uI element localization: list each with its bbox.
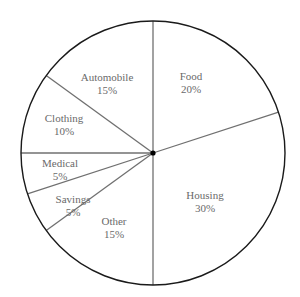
slice-label-food: Food 20% [180,70,203,95]
slice-value: 5% [66,206,81,218]
slice-label-other: Other 15% [101,215,126,240]
slice-value: 15% [104,228,124,240]
slice-value: 20% [181,83,201,95]
slice-value: 5% [53,170,68,182]
pie-chart: Food 20% Housing 30% Other 15% Savings 5… [0,0,300,297]
center-dot [150,150,155,155]
slice-name: Other [101,215,126,227]
slice-name: Medical [42,157,78,169]
slice-value: 30% [195,202,215,214]
slice-name: Food [180,70,203,82]
slice-name: Automobile [81,71,134,83]
slice-name: Savings [56,193,91,205]
slice-value: 10% [54,125,74,137]
slice-name: Housing [186,189,224,201]
slice-value: 15% [97,84,117,96]
slice-name: Clothing [45,112,84,124]
